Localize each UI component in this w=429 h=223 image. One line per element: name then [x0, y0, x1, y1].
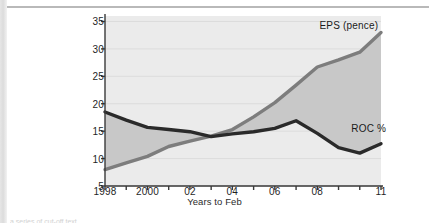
line-chart: 5101520253035 199820000204060811 Years t… [0, 0, 429, 223]
y-tick-label: 25 [80, 71, 104, 82]
x-axis-title: Years to Feb [0, 196, 429, 207]
y-tick-label: 35 [80, 16, 104, 27]
y-tick-label: 30 [80, 43, 104, 54]
scanned-page: 5101520253035 199820000204060811 Years t… [0, 0, 429, 223]
series-label: EPS (pence) [319, 20, 378, 31]
y-tick-label: 10 [80, 153, 104, 164]
y-tick-label: 20 [80, 98, 104, 109]
page-bottom-cut-text: a series of cut-off text [10, 218, 425, 223]
series-label: ROC % [351, 123, 386, 134]
y-tick-label: 15 [80, 126, 104, 137]
